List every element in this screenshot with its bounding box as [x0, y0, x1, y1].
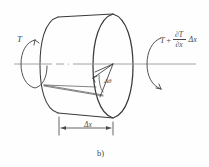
angle-arc — [99, 75, 103, 92]
dimension-arrow-right — [106, 126, 111, 130]
torque-left-arrow-head — [34, 40, 39, 45]
cylinder-bottom-edge — [58, 113, 113, 118]
torque-right-suffix: Δx — [187, 36, 197, 44]
angle-of-twist-label: Δθ — [104, 78, 112, 85]
torque-right-plus: + — [166, 36, 172, 45]
cylinder-element — [40, 14, 133, 118]
length-dimension-label: Δx — [84, 121, 92, 129]
torsion-element-figure: T T + ∂T ∂x Δx Δθ Δx b) — [0, 0, 209, 167]
cylinder-back-face-arc — [40, 17, 58, 113]
center-axis-dot — [68, 63, 69, 64]
partial-derivative-fraction: ∂T ∂x — [173, 31, 186, 49]
figure-caption: b) — [97, 149, 104, 158]
torque-right-base: T — [160, 36, 165, 45]
twist-construction-lines — [44, 85, 103, 96]
torque-right-label: T + ∂T ∂x Δx — [160, 31, 197, 49]
cylinder-front-face-ellipse — [93, 14, 133, 118]
dimension-arrow-left — [61, 126, 66, 130]
torque-right-arrow — [147, 38, 161, 89]
torque-right-loop — [147, 38, 161, 89]
center-axis — [14, 63, 196, 64]
fraction-denominator: ∂x — [174, 40, 183, 48]
torque-left-label: T — [17, 35, 22, 44]
cylinder-top-edge — [58, 14, 113, 17]
fraction-numerator: ∂T — [174, 31, 184, 39]
